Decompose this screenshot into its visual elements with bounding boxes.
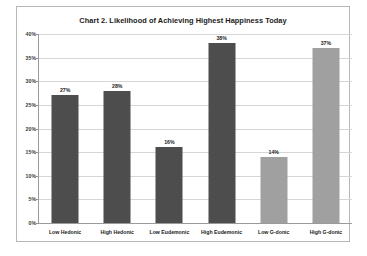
bar-value-label: 28%	[112, 83, 122, 89]
bar-value-label: 27%	[60, 87, 70, 93]
x-axis-category-label: High Eudemonic	[201, 229, 242, 235]
y-axis-label: 5%	[29, 196, 37, 202]
y-axis-label: 40%	[26, 31, 36, 37]
bar[interactable]: 28%	[104, 91, 131, 223]
bar-group: 28%High Hedonic	[91, 34, 143, 223]
chart-title: Chart 2. Likelihood of Achieving Highest…	[17, 16, 349, 25]
bar[interactable]: 27%	[52, 95, 79, 223]
x-axis-category-label: Low Eudemonic	[150, 229, 190, 235]
bar[interactable]: 14%	[260, 157, 287, 223]
y-axis-label: 20%	[26, 126, 36, 132]
bar-value-label: 38%	[216, 35, 226, 41]
bar[interactable]: 16%	[156, 147, 183, 223]
bars-group: 27%Low Hedonic28%High Hedonic16%Low Eude…	[39, 34, 352, 223]
y-axis-label: 30%	[26, 78, 36, 84]
y-axis-label: 35%	[26, 55, 36, 61]
bar-group: 38%High Eudemonic	[196, 34, 248, 223]
bar-value-label: 16%	[164, 139, 174, 145]
y-axis-label: 0%	[29, 220, 37, 226]
y-axis-label: 10%	[26, 173, 36, 179]
x-axis-category-label: High G-donic	[310, 229, 343, 235]
x-axis-category-label: Low Hedonic	[49, 229, 81, 235]
x-axis-category-label: High Hedonic	[101, 229, 134, 235]
bar[interactable]: 37%	[312, 48, 339, 223]
bar-group: 16%Low Eudemonic	[143, 34, 195, 223]
plot-area: 0%5%10%15%20%25%30%35%40% 27%Low Hedonic…	[38, 34, 352, 224]
bar-group: 27%Low Hedonic	[39, 34, 91, 223]
y-axis-label: 25%	[26, 102, 36, 108]
chart-container: Chart 2. Likelihood of Achieving Highest…	[16, 6, 350, 242]
x-axis-category-label: Low G-donic	[258, 229, 289, 235]
bar-value-label: 37%	[321, 40, 331, 46]
bar-group: 14%Low G-donic	[248, 34, 300, 223]
y-axis-label: 15%	[26, 149, 36, 155]
bar-value-label: 14%	[269, 149, 279, 155]
bar[interactable]: 38%	[208, 43, 235, 223]
bar-group: 37%High G-donic	[300, 34, 352, 223]
